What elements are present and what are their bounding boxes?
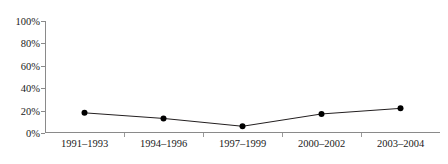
y-axis-tick-label: 0% [26, 128, 40, 139]
data-point-marker [319, 111, 325, 117]
x-axis-tick-label: 1991–1993 [61, 138, 108, 149]
x-axis-tick [361, 133, 362, 137]
x-axis-tick [282, 133, 283, 137]
y-axis-tick-label: 20% [21, 105, 40, 116]
data-point-marker [82, 110, 88, 116]
data-point-marker [161, 115, 167, 121]
x-axis-tick-label: 2003–2004 [377, 138, 424, 149]
y-axis-tick-label: 80% [21, 38, 40, 49]
data-point-marker [398, 105, 404, 111]
data-series-line [45, 21, 440, 133]
y-axis-tick-label: 40% [21, 83, 40, 94]
x-axis-tick-label: 1994–1996 [140, 138, 187, 149]
y-axis-tick [41, 133, 45, 134]
plot-area [45, 21, 440, 133]
x-axis-tick-label: 1997–1999 [219, 138, 266, 149]
data-point-marker [240, 123, 246, 129]
x-axis-tick-label: 2000–2002 [298, 138, 345, 149]
x-axis-tick-labels: 1991–19931994–19961997–19992000–20022003… [45, 138, 440, 160]
y-axis-tick-label: 100% [16, 16, 41, 27]
x-axis-tick [203, 133, 204, 137]
line-chart: 100% 80% 60% 40% 20% 0% 1991–19931994–19… [0, 0, 448, 164]
y-axis-tick-label: 60% [21, 60, 40, 71]
x-axis-tick [124, 133, 125, 137]
y-axis-tick-labels: 100% 80% 60% 40% 20% 0% [0, 0, 44, 164]
